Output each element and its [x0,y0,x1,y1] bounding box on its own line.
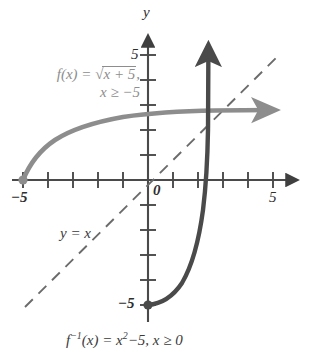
y-tick-label-5: 5 [131,47,139,62]
function-label-f-inverse-tail: −5, x ≥ 0 [128,332,183,348]
function-label-f: f(x) = √x + 5, x ≥ −5 [8,66,140,100]
function-label-f-radicand: x + 5 [102,66,136,82]
function-label-f-inverse-exponent: −1 [70,330,82,341]
y-axis-label: y [143,5,150,20]
function-label-f-inverse-rest: (x) = x [82,332,123,348]
identity-line-label: y = x [60,226,91,241]
endpoint-marker-f [18,175,27,184]
function-label-f-domain: x ≥ −5 [100,85,140,100]
function-label-f-inverse: f−1(x) = x2−5, x ≥ 0 [66,331,183,348]
endpoint-marker-f-inverse [143,300,152,309]
origin-label: 0 [153,183,161,198]
x-tick-label-5: 5 [269,190,277,205]
function-label-f-line1: f(x) = √x + 5, [57,66,140,82]
function-label-f-comma: , [136,66,140,82]
function-graph-figure: y 5 −5 0 −5 5 f(x) = √x + 5, x ≥ −5 y = … [0,0,315,362]
x-tick-label-minus-5: −5 [11,190,28,205]
y-tick-label-minus-5: −5 [118,296,135,311]
function-label-f-prefix: f(x) = [57,66,92,82]
curve-f-inverse-parabola [148,48,208,305]
graph-canvas [0,0,315,362]
